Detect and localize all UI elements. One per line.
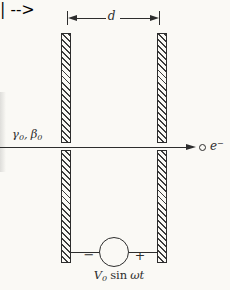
plate-upper-left: [61, 33, 71, 143]
electron-label: e−: [210, 139, 224, 154]
positive-terminal-label: +: [133, 249, 147, 263]
dimension-tick-right: [159, 11, 160, 25]
plate-upper-right: [157, 33, 167, 143]
electron-marker-icon: [199, 144, 206, 151]
electron-charge-superscript: −: [217, 139, 224, 148]
gamma-symbol: γ: [12, 127, 19, 141]
dimension-line-right: [120, 18, 151, 19]
sin-function-label: sin: [110, 268, 127, 282]
omega-t-argument: ωt: [130, 268, 144, 282]
rf-gap-capacitor-diagram: | --> d γ0,β0 e− − + V0sinωt: [0, 0, 230, 290]
beam-arrowhead-icon: [186, 144, 196, 150]
dimension-line-left: [75, 18, 106, 19]
electron-beam-line: [0, 147, 188, 149]
scan-artifact: [0, 92, 6, 172]
dimension-label: d: [104, 10, 119, 24]
plate-lower-right: [157, 150, 167, 263]
beta-subscript: 0: [37, 133, 42, 142]
voltage-subscript: 0: [102, 274, 107, 283]
ac-source-circle-icon: [99, 237, 129, 267]
beam-parameters-label: γ0,β0: [12, 128, 42, 142]
dimension-arrowhead-right-icon: [150, 15, 159, 21]
plate-lower-left: [61, 150, 71, 263]
voltage-symbol: V: [94, 268, 102, 282]
source-voltage-label: V0sinωt: [78, 269, 160, 283]
negative-terminal-label: −: [82, 248, 96, 263]
separator-comma: ,: [24, 127, 28, 141]
